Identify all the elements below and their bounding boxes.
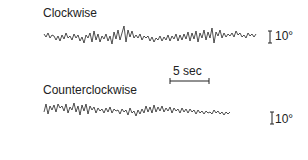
trace-counterclockwise — [44, 103, 230, 116]
figure-graphics — [0, 0, 308, 160]
trace-clockwise — [44, 26, 256, 44]
